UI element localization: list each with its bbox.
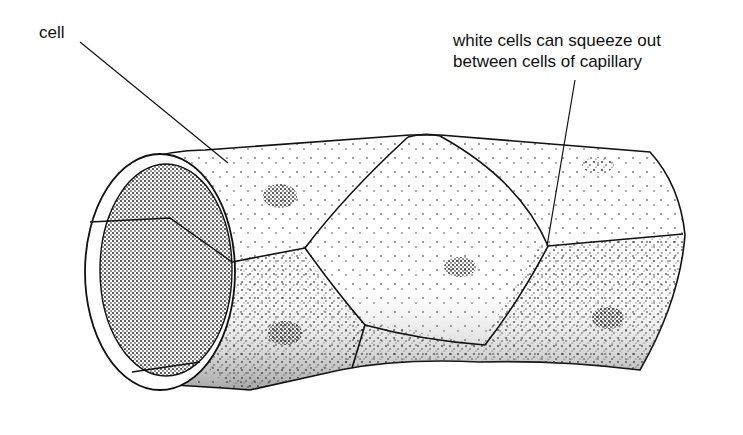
label-white-cells: white cells can squeeze out between cell… [453,30,661,72]
nucleus-3 [582,157,614,173]
nucleus-5 [592,307,624,329]
label-white-cells-line1: white cells can squeeze out [453,30,661,51]
capillary-diagram: cell white cells can squeeze out between… [0,0,743,435]
nucleus-1 [263,184,297,208]
capillary-opening [85,154,235,390]
nucleus-2 [444,257,476,277]
nucleus-4 [268,321,302,345]
cell-leader-line [80,42,228,163]
label-cell: cell [39,22,65,43]
label-white-cells-line2: between cells of capillary [453,51,661,72]
